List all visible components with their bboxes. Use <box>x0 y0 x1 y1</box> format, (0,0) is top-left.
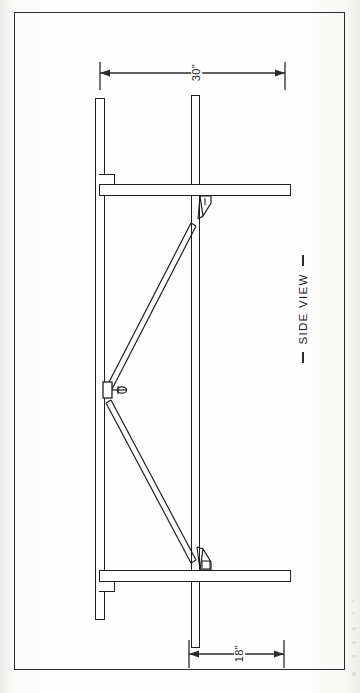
lower-gusset-block <box>197 547 211 570</box>
upper-diagonal-brace <box>106 223 196 391</box>
view-label: SIDE VIEW <box>294 254 312 364</box>
drawing-page: 30" 18" SIDE VIEW <box>0 0 360 693</box>
view-label-tick-right <box>302 255 303 266</box>
upper-gusset-block <box>198 196 211 219</box>
view-label-text: SIDE VIEW <box>297 273 309 344</box>
view-label-tick-left <box>302 352 303 363</box>
arm-length-dimension-label: 30" <box>191 62 202 83</box>
post-spacing-dimension-label: 18" <box>234 643 245 664</box>
lower-diagonal-brace <box>106 400 196 563</box>
